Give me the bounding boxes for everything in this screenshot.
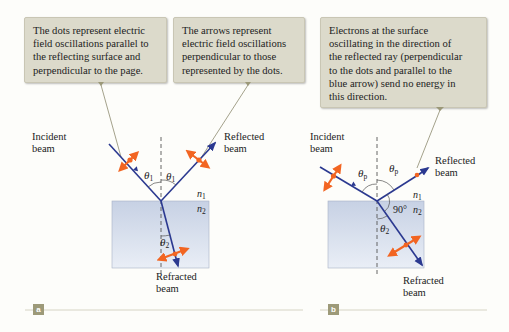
- right-angle-label: 90°: [393, 204, 407, 216]
- theta2-refracted-label: θ2: [160, 236, 169, 252]
- label-line: Reflected: [435, 155, 475, 167]
- polarization-dot-icon: [196, 157, 201, 162]
- incident-ray: [109, 144, 161, 201]
- thetap-reflected-label: θp: [389, 162, 398, 178]
- reflected-ray: [377, 175, 418, 201]
- panel-b-tag: b: [328, 304, 339, 315]
- reflected-ray-arrow-icon: [418, 168, 428, 175]
- n2-label: n2: [413, 204, 422, 219]
- theta1-reflected-label: θ1: [166, 170, 175, 186]
- polarization-dot-icon: [127, 157, 132, 162]
- label-line: beam: [310, 143, 344, 155]
- thetap-incident-label: θp: [358, 167, 367, 183]
- angle-arc: [377, 180, 394, 190]
- glass-block: [112, 201, 209, 268]
- panel-b-reflected-label: Reflected beam: [435, 155, 475, 179]
- label-line: Incident: [32, 131, 66, 143]
- n2-label: n2: [197, 203, 206, 218]
- label-line: beam: [435, 167, 475, 179]
- panel-a-reflected-label: Reflected beam: [224, 131, 264, 155]
- panel-a-refracted-label: Refracted beam: [156, 271, 197, 295]
- panel-b: [320, 137, 428, 276]
- label-line: Refracted: [403, 275, 444, 287]
- label-line: beam: [32, 143, 66, 155]
- panel-a-incident-label: Incident beam: [32, 131, 66, 155]
- label-line: Incident: [310, 131, 344, 143]
- theta1-incident-label: θ1: [144, 169, 153, 185]
- n1-label: n1: [197, 188, 206, 203]
- panel-b-refracted-label: Refracted beam: [403, 275, 444, 299]
- panel-a-tag: a: [33, 304, 44, 315]
- n1-label: n1: [413, 189, 422, 204]
- polarization-dot-icon: [404, 243, 409, 248]
- glass-block: [328, 201, 424, 268]
- polarization-dot-icon: [331, 173, 336, 178]
- theta2-refracted-label: θ2: [380, 222, 389, 238]
- label-line: Refracted: [156, 271, 197, 283]
- label-line: beam: [403, 287, 444, 299]
- label-line: beam: [156, 283, 197, 295]
- polarization-dot-icon: [173, 252, 178, 257]
- incident-ray-arrow-icon: [351, 181, 356, 186]
- panel-b-incident-label: Incident beam: [310, 131, 344, 155]
- angle-arc: [362, 184, 377, 192]
- label-line: beam: [224, 143, 264, 155]
- label-line: Reflected: [224, 131, 264, 143]
- polarization-dot-icon: [415, 173, 420, 178]
